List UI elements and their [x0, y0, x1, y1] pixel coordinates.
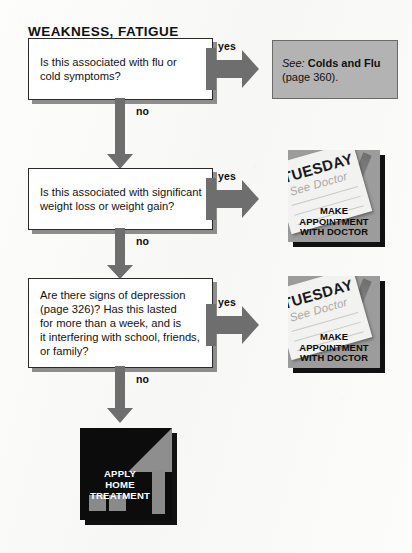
no-arrow-2 [105, 228, 135, 280]
flowchart-canvas: WEAKNESS, FATIGUE Is this associated wit… [0, 0, 412, 553]
illustration-make-appointment-2[interactable]: TUESDAY See Doctor MAKE APPOINTMENT WITH… [288, 276, 380, 368]
no-arrow-1 [105, 98, 135, 170]
caption-line-3: WITH DOCTOR [300, 226, 368, 237]
edge-label-yes-2: yes [218, 170, 236, 182]
edge-label-no-3: no [136, 373, 149, 385]
reference-box-text: See: Colds and Flu (page 360). [282, 56, 391, 84]
caption-line-2: HOME [105, 479, 135, 490]
yes-arrow-3 [206, 302, 260, 348]
decision-box-flu-or-cold-symptoms[interactable]: Is this associated with flu or cold symp… [28, 38, 213, 100]
no-arrow-3 [105, 366, 135, 424]
house-roof-icon [128, 428, 172, 472]
page-title: WEAKNESS, FATIGUE [28, 24, 179, 39]
decision-question-text: Are there signs of depression (page 326)… [40, 288, 204, 358]
edge-label-yes-1: yes [218, 40, 236, 52]
caption-line-2: APPOINTMENT [299, 216, 368, 227]
reference-page-note: (page 360). [282, 71, 338, 83]
illustration-make-appointment-1[interactable]: TUESDAY See Doctor MAKE APPOINTMENT WITH… [288, 150, 380, 242]
illustration-apply-home-treatment[interactable]: APPLY HOME TREATMENT [80, 428, 172, 520]
caption-line-3: TREATMENT [90, 490, 150, 501]
edge-label-yes-3: yes [218, 296, 236, 308]
decision-box-weight-loss-or-gain[interactable]: Is this associated with significant weig… [28, 168, 213, 230]
caption-line-1: APPLY [104, 468, 136, 479]
illustration-caption: MAKE APPOINTMENT WITH DOCTOR [288, 206, 380, 238]
reference-see-label: See: [282, 57, 305, 69]
illustration-body: TUESDAY See Doctor MAKE APPOINTMENT WITH… [288, 150, 380, 242]
illustration-caption: MAKE APPOINTMENT WITH DOCTOR [288, 332, 380, 364]
illustration-caption: APPLY HOME TREATMENT [82, 468, 158, 501]
decision-question-text: Is this associated with significant weig… [40, 185, 204, 213]
edge-label-no-2: no [136, 235, 149, 247]
yes-arrow-1 [206, 46, 260, 92]
illustration-body: TUESDAY See Doctor MAKE APPOINTMENT WITH… [288, 276, 380, 368]
caption-line-3: WITH DOCTOR [300, 352, 368, 363]
caption-line-1: MAKE [320, 331, 348, 342]
decision-question-text: Is this associated with flu or cold symp… [40, 55, 204, 83]
reference-topic: Colds and Flu [308, 57, 381, 69]
yes-arrow-2 [206, 176, 260, 222]
decision-box-signs-of-depression[interactable]: Are there signs of depression (page 326)… [28, 278, 213, 368]
edge-label-no-1: no [136, 105, 149, 117]
caption-line-1: MAKE [320, 205, 348, 216]
illustration-body: APPLY HOME TREATMENT [80, 428, 172, 520]
caption-line-2: APPOINTMENT [299, 342, 368, 353]
reference-box-colds-and-flu[interactable]: See: Colds and Flu (page 360). [272, 40, 398, 99]
